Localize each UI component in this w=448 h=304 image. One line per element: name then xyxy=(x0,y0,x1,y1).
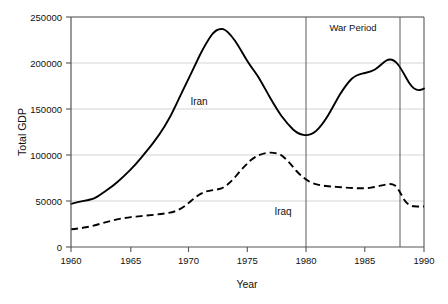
x-tick-marks xyxy=(71,247,424,252)
x-tick-label-1975: 1975 xyxy=(237,255,258,266)
x-tick-label-1980: 1980 xyxy=(295,255,316,266)
x-tick-label-1965: 1965 xyxy=(120,255,141,266)
y-tick-label-150000: 150000 xyxy=(30,104,62,115)
series-label-iraq: Iraq xyxy=(274,206,291,217)
y-axis-title: Total GDP xyxy=(16,108,28,156)
y-tick-label-50000: 50000 xyxy=(36,196,62,207)
chart-canvas: 250000 200000 150000 100000 50000 0 1960… xyxy=(0,0,448,304)
y-tick-label-100000: 100000 xyxy=(30,150,62,161)
x-tick-labels: 1960 1965 1970 1975 1980 1985 1990 xyxy=(60,255,434,266)
x-axis-title: Year xyxy=(236,278,258,290)
series-label-iran: Iran xyxy=(190,96,207,107)
y-tick-label-0: 0 xyxy=(57,242,62,253)
y-tick-labels: 250000 200000 150000 100000 50000 0 xyxy=(30,12,62,253)
y-tick-label-250000: 250000 xyxy=(30,12,62,23)
y-tick-label-200000: 200000 xyxy=(30,58,62,69)
x-tick-label-1960: 1960 xyxy=(60,255,81,266)
war-period-annotation: War Period xyxy=(329,22,376,33)
x-tick-label-1990: 1990 xyxy=(413,255,434,266)
x-tick-label-1985: 1985 xyxy=(354,255,375,266)
gdp-line-chart: 250000 200000 150000 100000 50000 0 1960… xyxy=(0,0,448,304)
x-tick-label-1970: 1970 xyxy=(178,255,199,266)
y-tick-marks xyxy=(66,17,71,247)
plot-background xyxy=(71,17,424,247)
